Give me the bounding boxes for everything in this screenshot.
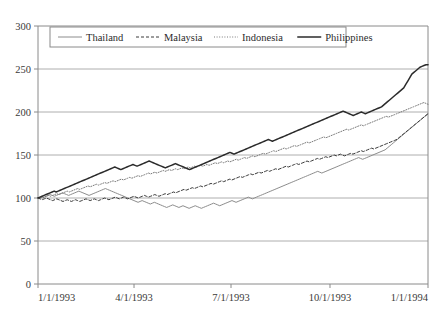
y-axis-label-250: 250 <box>15 64 31 75</box>
legend-label-thailand: Thailand <box>86 32 124 43</box>
chart-canvas: 050100150200250300 1/1/19934/1/19937/1/1… <box>0 0 443 320</box>
chart-legend: ThailandMalaysiaIndonesiaPhilippines <box>50 27 373 47</box>
gridlines-group <box>38 69 428 241</box>
legend-label-philippines: Philippines <box>325 32 372 43</box>
y-axis-label-150: 150 <box>15 150 31 161</box>
legend-label-indonesia: Indonesia <box>242 32 283 43</box>
y-axis-label-100: 100 <box>15 193 31 204</box>
x-axis-label-10/1/1993: 10/1/1993 <box>309 292 352 303</box>
series-line-indonesia <box>38 103 428 198</box>
x-axis-label-1/1/1993: 1/1/1993 <box>38 292 75 303</box>
y-axis-label-50: 50 <box>21 236 32 247</box>
x-axis-label-4/1/1993: 4/1/1993 <box>115 292 152 303</box>
x-axis-label-7/1/1993: 7/1/1993 <box>212 292 249 303</box>
y-axis-label-200: 200 <box>15 107 31 118</box>
y-axis-label-300: 300 <box>15 21 31 32</box>
series-line-philippines <box>38 65 428 198</box>
y-axis-label-0: 0 <box>26 279 31 290</box>
stock-index-line-chart: 050100150200250300 1/1/19934/1/19937/1/1… <box>0 0 443 320</box>
y-axis-ticks-group: 050100150200250300 <box>15 21 38 290</box>
x-axis-label-1/1/1994: 1/1/1994 <box>391 292 429 303</box>
data-series-group <box>38 65 428 209</box>
legend-label-malaysia: Malaysia <box>164 32 203 43</box>
x-axis-ticks-group: 1/1/19934/1/19937/1/199310/1/19931/1/199… <box>38 284 429 303</box>
series-line-malaysia <box>38 114 428 202</box>
